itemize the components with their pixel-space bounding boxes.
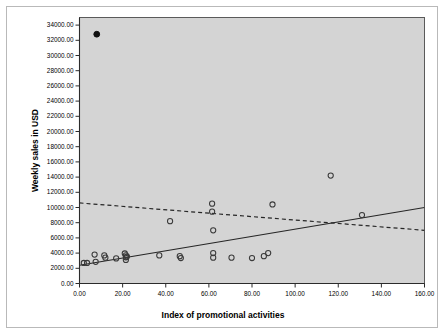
x-axis-tick-label: 120.00	[314, 290, 362, 297]
y-axis-tick-label: 0.00	[61, 280, 73, 287]
y-axis-tick-label: 10000.00	[47, 204, 74, 211]
y-axis-tick-label: 22000.00	[47, 112, 74, 119]
y-axis-tick-label: 8000.00	[50, 219, 73, 226]
y-axis-title: Weekly sales in USD	[30, 109, 40, 192]
outlier-data-point	[94, 31, 100, 37]
y-axis-tick-label: 20000.00	[47, 128, 74, 135]
y-axis-tick-label: 12000.00	[47, 188, 74, 195]
x-axis-tick-label: 160.00	[401, 290, 446, 297]
y-axis-tick-label: 2000.00	[50, 264, 73, 271]
y-axis-tick-label: 24000.00	[47, 97, 74, 104]
y-axis-tick-label: 14000.00	[47, 173, 74, 180]
plot-background	[80, 18, 425, 284]
y-axis-tick-label: 32000.00	[47, 36, 74, 43]
x-axis-tick-label: 80.00	[228, 290, 276, 297]
x-axis-tick-label: 20.00	[99, 290, 147, 297]
y-axis-tick-label: 28000.00	[47, 67, 74, 74]
y-axis-tick-label: 30000.00	[47, 52, 74, 59]
x-axis-title: Index of promotional activities	[0, 310, 446, 320]
y-axis-tick-label: 18000.00	[47, 143, 74, 150]
x-axis-tick-label: 40.00	[142, 290, 190, 297]
y-axis-tick-label: 16000.00	[47, 158, 74, 165]
y-axis-tick-label: 26000.00	[47, 82, 74, 89]
scatter-plot-figure: Weekly sales in USD Index of promotional…	[0, 0, 446, 336]
y-axis-tick-label: 4000.00	[50, 249, 73, 256]
x-axis-tick-label: 0.00	[56, 290, 104, 297]
x-axis-tick-label: 140.00	[357, 290, 405, 297]
x-axis-tick-label: 100.00	[271, 290, 319, 297]
x-axis-tick-label: 60.00	[185, 290, 233, 297]
y-axis-tick-label: 6000.00	[50, 234, 73, 241]
y-axis-tick-label: 34000.00	[47, 21, 74, 28]
